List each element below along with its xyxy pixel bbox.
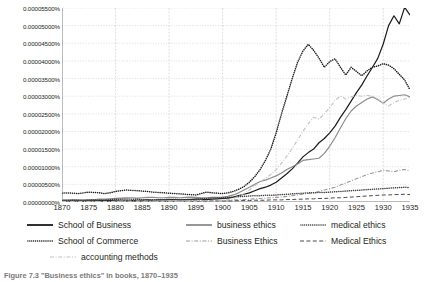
y-tick-label: 0.00002500% bbox=[2, 110, 60, 117]
x-tick-label: 1905 bbox=[241, 203, 258, 212]
ngram-figure: 0.00005500%0.00005000%0.00004500%0.00004… bbox=[0, 0, 425, 282]
legend-item-label: medical ethics bbox=[331, 220, 385, 230]
y-tick-label: 0.00005500% bbox=[2, 5, 60, 12]
legend-item-label: School of Commerce bbox=[58, 236, 138, 246]
y-tick-label: 0.00001000% bbox=[2, 163, 60, 170]
figure-caption: Figure 7.3 "Business ethics" in books, 1… bbox=[4, 271, 424, 280]
x-tick-label: 1920 bbox=[321, 203, 338, 212]
x-tick-label: 1870 bbox=[54, 203, 71, 212]
legend-item[interactable]: School of Commerce bbox=[27, 235, 138, 247]
legend-item[interactable]: medical ethics bbox=[300, 219, 385, 231]
y-tick-label: 0.00000500% bbox=[2, 181, 60, 188]
y-tick-label: 0.00004500% bbox=[2, 40, 60, 47]
legend-item[interactable]: Business Ethics bbox=[186, 235, 278, 247]
chart-plot-wrapper: 0.00005500%0.00005000%0.00004500%0.00004… bbox=[0, 0, 425, 212]
legend-line-swatch bbox=[27, 237, 53, 245]
chart-series-lines bbox=[62, 8, 410, 202]
legend-item-label: School of Business bbox=[58, 220, 131, 230]
legend-item-label: accounting methods bbox=[81, 252, 158, 262]
x-tick-label: 1875 bbox=[80, 203, 97, 212]
chart-plot-area bbox=[62, 8, 410, 202]
x-axis-tick-labels: 1870187518801885189018951900190519101915… bbox=[0, 203, 425, 217]
legend-line-swatch bbox=[27, 221, 53, 229]
x-tick-label: 1930 bbox=[375, 203, 392, 212]
series-line bbox=[62, 95, 410, 201]
y-tick-label: 0.00005000% bbox=[2, 22, 60, 29]
series-line bbox=[62, 44, 410, 195]
y-axis-tick-labels: 0.00005500%0.00005000%0.00004500%0.00004… bbox=[0, 0, 60, 212]
x-tick-label: 1890 bbox=[161, 203, 178, 212]
x-tick-label: 1880 bbox=[107, 203, 124, 212]
x-tick-label: 1910 bbox=[268, 203, 285, 212]
y-tick-label: 0.00002000% bbox=[2, 128, 60, 135]
legend-line-swatch bbox=[186, 221, 212, 229]
legend-line-swatch bbox=[186, 237, 212, 245]
y-tick-label: 0.00003000% bbox=[2, 93, 60, 100]
chart-legend: School of Businessbusiness ethicsmedical… bbox=[0, 219, 425, 267]
legend-item[interactable]: accounting methods bbox=[50, 251, 158, 263]
series-line bbox=[62, 95, 410, 200]
y-tick-label: 0.00004000% bbox=[2, 57, 60, 64]
x-tick-label: 1900 bbox=[214, 203, 231, 212]
legend-line-swatch bbox=[300, 237, 326, 245]
x-tick-label: 1885 bbox=[134, 203, 151, 212]
legend-item-label: business ethics bbox=[217, 220, 276, 230]
legend-item[interactable]: business ethics bbox=[186, 219, 276, 231]
x-tick-label: 1895 bbox=[187, 203, 204, 212]
x-tick-label: 1925 bbox=[348, 203, 365, 212]
y-tick-label: 0.00001500% bbox=[2, 146, 60, 153]
legend-line-swatch bbox=[300, 221, 326, 229]
x-tick-label: 1915 bbox=[294, 203, 311, 212]
x-tick-label: 1935 bbox=[402, 203, 419, 212]
legend-line-swatch bbox=[50, 253, 76, 261]
legend-item[interactable]: Medical Ethics bbox=[300, 235, 386, 247]
legend-item-label: Medical Ethics bbox=[331, 236, 386, 246]
legend-item-label: Business Ethics bbox=[217, 236, 278, 246]
y-tick-label: 0.00003500% bbox=[2, 75, 60, 82]
legend-item[interactable]: School of Business bbox=[27, 219, 131, 231]
